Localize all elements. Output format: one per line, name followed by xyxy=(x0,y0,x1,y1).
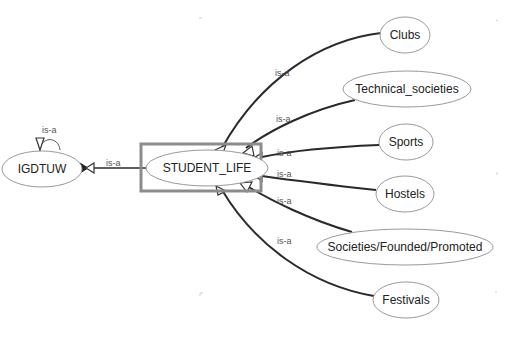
edge-label: is-a xyxy=(42,125,57,135)
edge-label: is-a xyxy=(277,169,292,179)
edge-label: is-a xyxy=(106,158,121,168)
edge-sports-to-student-life[interactable]: is-a xyxy=(252,145,379,163)
edge-igdtuw-self-loop[interactable]: is-a xyxy=(36,125,60,152)
node-label: STUDENT_LIFE xyxy=(163,161,252,175)
node-technical-societies[interactable]: Technical_societies xyxy=(343,71,471,107)
edge-label: is-a xyxy=(276,114,291,124)
edge-label: is-a xyxy=(277,196,292,206)
node-label: Festivals xyxy=(382,293,429,307)
node-label: Sports xyxy=(389,135,424,149)
node-label: IGDTUW xyxy=(18,162,67,176)
edge-hostels-to-student-life[interactable]: is-a xyxy=(252,169,376,190)
node-student-life[interactable]: STUDENT_LIFE xyxy=(146,150,268,186)
node-societies-founded-promoted[interactable]: Societies/Founded/Promoted xyxy=(317,229,493,265)
edge-label: is-a xyxy=(277,148,292,158)
node-label: Hostels xyxy=(385,187,425,201)
node-festivals[interactable]: Festivals xyxy=(373,282,439,318)
node-label: Clubs xyxy=(390,28,421,42)
ontology-graph-canvas[interactable]: is-a is-a is-a is-a is-a is-a is-a is-a xyxy=(0,0,512,337)
node-label: Technical_societies xyxy=(355,82,458,96)
edge-label: is-a xyxy=(275,68,290,78)
node-clubs[interactable]: Clubs xyxy=(380,17,430,53)
node-label: Societies/Founded/Promoted xyxy=(328,240,483,254)
open-arrow-head-icon xyxy=(86,163,94,173)
edge-label: is-a xyxy=(277,236,292,246)
node-hostels[interactable]: Hostels xyxy=(376,176,434,212)
node-sports[interactable]: Sports xyxy=(379,124,433,160)
edge-student-life-to-igdtuw[interactable]: is-a xyxy=(80,158,146,173)
open-arrow-head-icon xyxy=(36,138,44,150)
node-igdtuw[interactable]: IGDTUW xyxy=(2,151,82,187)
